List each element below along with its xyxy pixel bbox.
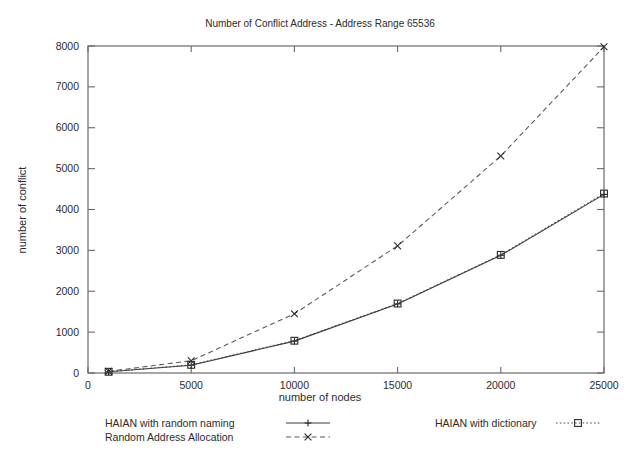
x-axis-title: number of nodes xyxy=(279,391,362,403)
y-axis-tick-labels: 010002000300040005000600070008000 xyxy=(56,40,80,379)
legend-label-0: HAIAN with random naming xyxy=(105,417,235,429)
svg-text:10000: 10000 xyxy=(280,379,309,391)
svg-text:20000: 20000 xyxy=(486,379,515,391)
svg-text:3000: 3000 xyxy=(56,244,80,256)
svg-text:6000: 6000 xyxy=(56,121,80,133)
y-axis-title: number of conflict xyxy=(16,167,28,254)
legend-label-1: Random Address Allocation xyxy=(105,431,234,443)
svg-text:0: 0 xyxy=(85,379,91,391)
chart-figure: Number of Conflict Address - Address Ran… xyxy=(0,0,628,454)
svg-text:8000: 8000 xyxy=(56,40,80,52)
svg-text:15000: 15000 xyxy=(383,379,412,391)
chart-title: Number of Conflict Address - Address Ran… xyxy=(205,18,435,29)
svg-text:4000: 4000 xyxy=(56,203,80,215)
svg-text:0: 0 xyxy=(73,367,79,379)
legend-label-2: HAIAN with dictionary xyxy=(435,417,537,429)
svg-text:5000: 5000 xyxy=(180,379,204,391)
svg-text:5000: 5000 xyxy=(56,162,80,174)
svg-text:7000: 7000 xyxy=(56,80,80,92)
svg-text:1000: 1000 xyxy=(56,326,80,338)
chart-background xyxy=(0,0,628,454)
svg-text:2000: 2000 xyxy=(56,285,80,297)
svg-text:25000: 25000 xyxy=(589,379,618,391)
